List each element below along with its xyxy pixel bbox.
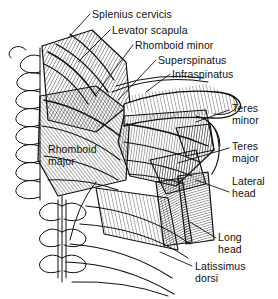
anatomy-figure: Splenius cervicisLevator scapulaRhomboid… (0, 0, 278, 299)
label-line: head (232, 188, 265, 200)
label-splenius-cervicis: Splenius cervicis (92, 9, 172, 21)
label-infraspinatus: Infraspinatus (172, 69, 233, 81)
label-line: dorsi (195, 273, 246, 285)
label-line: Superspinatus (158, 55, 226, 67)
label-line: Levator scapula (112, 25, 188, 37)
label-superspinatus: Superspinatus (158, 55, 226, 67)
label-line: Infraspinatus (172, 69, 233, 81)
label-lateral-head: Lateralhead (232, 176, 265, 199)
label-teres-major: Teresmajor (232, 141, 259, 164)
label-line: Long (218, 232, 242, 244)
label-line: minor (232, 115, 259, 127)
label-line: Latissimus (195, 261, 246, 273)
label-line: Teres (232, 103, 259, 115)
label-line: Teres (232, 141, 259, 153)
label-rhomboid-minor: Rhomboid minor (135, 40, 213, 52)
label-line: Rhomboid (48, 144, 97, 156)
label-line: Rhomboid minor (135, 40, 213, 52)
label-levator-scapula: Levator scapula (112, 25, 188, 37)
label-line: major (48, 156, 97, 168)
label-teres-minor: Teresminor (232, 103, 259, 126)
label-line: major (232, 153, 259, 165)
label-latissimus-dorsi: Latissimusdorsi (195, 261, 246, 284)
label-line: Splenius cervicis (92, 9, 172, 21)
label-rhomboid-major: Rhomboidmajor (48, 144, 97, 167)
label-long-head: Longhead (218, 232, 242, 255)
label-line: Lateral (232, 176, 265, 188)
label-line: head (218, 244, 242, 256)
leader-latissimus-dorsi (160, 252, 192, 266)
